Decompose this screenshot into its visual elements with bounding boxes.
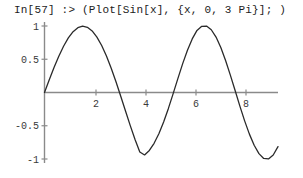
y-tick-label-0.5: 0.5 bbox=[21, 55, 39, 66]
mathematica-notebook-cell: In[57] :> (Plot[Sin[x], {x, 0, 3 Pi}]; )… bbox=[0, 0, 303, 178]
y-tick-label-minus-1: -1 bbox=[27, 155, 39, 166]
x-tick-label-8: 8 bbox=[243, 99, 249, 110]
y-tick-label-minus-0.5: -0.5 bbox=[15, 121, 39, 132]
sine-plot-svg: 2 4 6 8 1 0.5 -0.5 -1 bbox=[0, 16, 303, 178]
plot-output-graphic: 2 4 6 8 1 0.5 -0.5 -1 bbox=[0, 16, 303, 178]
x-tick-label-4: 4 bbox=[143, 99, 149, 110]
x-tick-label-2: 2 bbox=[93, 99, 99, 110]
x-tick-label-6: 6 bbox=[193, 99, 199, 110]
y-tick-label-1: 1 bbox=[33, 22, 39, 33]
